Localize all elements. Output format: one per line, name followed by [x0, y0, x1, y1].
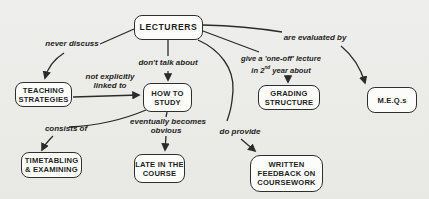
node-late-label-line2: COURSE: [143, 169, 177, 178]
node-how-to-study-label-line1: HOW TO: [151, 89, 183, 98]
edge-label-not-explicitly: not explicitly linked to: [83, 72, 137, 90]
edge-oneoff-line: [203, 31, 259, 52]
edge-label-never-discuss: never discuss: [42, 39, 102, 48]
node-written-label-line1: WRITTEN: [269, 160, 305, 169]
edge-label-one-off-line2: in 2nd year about: [234, 63, 328, 75]
concept-map: LECTURERS TEACHING STRATEGIES HOW TO STU…: [0, 0, 429, 199]
node-timetabling-label-line2: & EXAMINING: [25, 165, 78, 174]
edge-doprovide-arrow: [241, 139, 255, 151]
node-written-label-line3: COURSEWORK: [257, 178, 316, 187]
node-lecturers: LECTURERS: [134, 15, 203, 40]
node-timetabling-examining: TIMETABLING & EXAMINING: [21, 152, 82, 178]
edge-evaluated-arrow: [341, 46, 365, 83]
edge-consists-arrow: [42, 136, 53, 150]
edge-label-eventually-line2: obvious: [130, 126, 202, 135]
edge-not-explicitly-arrow: [73, 95, 139, 97]
edge-evaluated-line: [203, 25, 282, 32]
edge-label-are-evaluated-by: are evaluated by: [283, 33, 347, 42]
edge-eventually-arrow: [165, 136, 166, 150]
edge-label-eventually-line1: eventually becomes: [130, 117, 202, 126]
node-late-label-line1: LATE IN THE: [135, 160, 183, 169]
edge-doprovide-line: [198, 40, 233, 121]
edge-label-not-explicitly-line1: not explicitly: [83, 72, 137, 81]
node-teaching-strategies: TEACHING STRATEGIES: [15, 82, 72, 107]
node-late-in-the-course: LATE IN THE COURSE: [134, 154, 185, 183]
edge-label-consists-of: consists of: [43, 124, 89, 133]
node-lecturers-label: LECTURERS: [140, 23, 198, 32]
edge-label-eventually-obvious: eventually becomes obvious: [130, 117, 202, 135]
node-how-to-study-label-line2: STUDY: [154, 98, 181, 107]
node-meqs-label: M.E.Q.s: [377, 96, 406, 105]
edge-label-not-explicitly-line2: linked to: [83, 81, 137, 90]
node-how-to-study: HOW TO STUDY: [143, 83, 192, 112]
node-teaching-strategies-label-line2: STRATEGIES: [19, 95, 69, 104]
node-grading-structure-label-line2: STRUCTURE: [265, 98, 314, 107]
edge-label-do-provide: do provide: [218, 127, 262, 136]
node-grading-structure: GRADING STRUCTURE: [258, 85, 320, 110]
edge-never-discuss-line: [100, 29, 134, 44]
node-written-feedback: WRITTEN FEEDBACK ON COURSEWORK: [250, 155, 323, 192]
edge-label-one-off-line1: give a 'one-off' lecture: [234, 54, 328, 63]
edge-label-one-off-lecture: give a 'one-off' lecture in 2nd year abo…: [234, 54, 328, 75]
node-timetabling-label-line1: TIMETABLING: [25, 156, 79, 165]
node-meqs: M.E.Q.s: [367, 87, 417, 113]
node-written-label-line2: FEEDBACK ON: [258, 169, 316, 178]
node-teaching-strategies-label-line1: TEACHING: [23, 86, 64, 95]
edge-never-discuss-arrow: [45, 53, 64, 78]
edge-label-dont-talk-about: don't talk about: [135, 58, 201, 67]
node-grading-structure-label-line1: GRADING: [270, 89, 307, 98]
